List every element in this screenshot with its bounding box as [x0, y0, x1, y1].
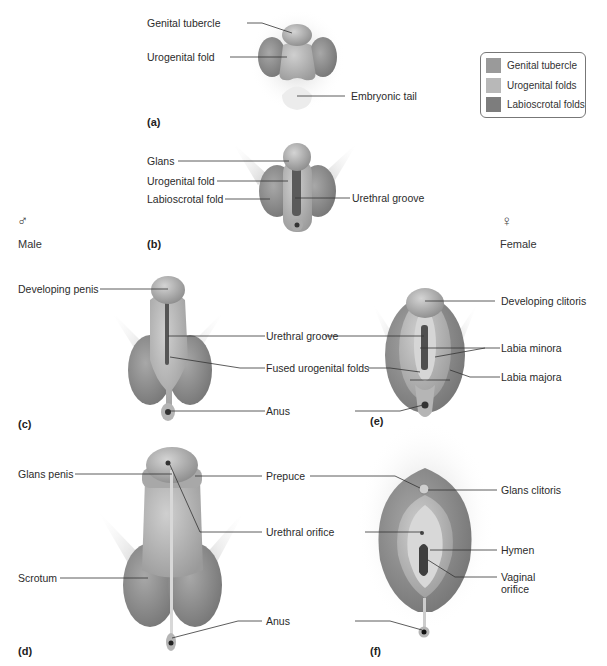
legend-item-labioscrotal-folds: Labioscrotal folds	[486, 96, 585, 112]
label-anus-df: Anus	[266, 615, 290, 627]
label-vaginal-orifice-line2: orifice	[501, 583, 529, 595]
legend-label: Genital tubercle	[507, 60, 577, 71]
label-glans-clitoris: Glans clitoris	[501, 484, 561, 496]
panel-tag-d: (d)	[18, 645, 32, 657]
panel-tag-a: (a)	[147, 116, 160, 128]
label-glans: Glans	[147, 155, 174, 167]
panel-c-drawing	[110, 276, 225, 421]
panel-tag-b: (b)	[147, 238, 161, 250]
label-urogenital-fold-a: Urogenital fold	[147, 51, 215, 63]
label-urethral-groove-b: Urethral groove	[352, 192, 424, 204]
label-labia-minora: Labia minora	[501, 342, 562, 354]
male-symbol-icon: ♂	[17, 212, 28, 229]
female-label: Female	[500, 238, 537, 250]
label-urethral-groove-ce: Urethral groove	[266, 330, 338, 342]
panel-tag-e: (e)	[370, 415, 383, 427]
male-label: Male	[18, 238, 42, 250]
label-labia-majora: Labia majora	[501, 371, 562, 383]
legend-label: Labioscrotal folds	[507, 99, 585, 110]
label-prepuce: Prepuce	[266, 470, 305, 482]
swatch-genital-tubercle	[486, 58, 501, 73]
label-urogenital-fold-b: Urogenital fold	[147, 175, 215, 187]
label-embryonic-tail: Embryonic tail	[351, 90, 417, 102]
label-scrotum: Scrotum	[18, 572, 57, 584]
swatch-urogenital-folds	[486, 78, 501, 93]
label-genital-tubercle: Genital tubercle	[147, 17, 221, 29]
genital-development-diagram: Genital tubercle Urogenital folds Labios…	[0, 0, 607, 666]
legend-item-urogenital-folds: Urogenital folds	[486, 77, 576, 93]
female-symbol-icon: ♀	[501, 212, 512, 229]
panel-f-drawing	[357, 420, 493, 638]
label-fused-urogenital-folds: Fused urogenital folds	[266, 362, 369, 374]
legend-item-genital-tubercle: Genital tubercle	[486, 57, 577, 73]
swatch-labioscrotal-folds	[486, 97, 501, 112]
label-vaginal-orifice-line1: Vaginal	[501, 571, 535, 583]
panel-d-drawing	[97, 447, 245, 651]
label-anus-ce: Anus	[266, 405, 290, 417]
legend: Genital tubercle Urogenital folds Labios…	[480, 52, 586, 118]
panel-tag-f: (f)	[370, 645, 381, 657]
panel-tag-c: (c)	[18, 418, 31, 430]
label-hymen: Hymen	[501, 544, 534, 556]
label-urethral-orifice: Urethral orifice	[266, 526, 334, 538]
label-developing-penis: Developing penis	[18, 283, 99, 295]
label-labioscrotal-fold: Labioscrotal fold	[147, 193, 223, 205]
legend-label: Urogenital folds	[507, 80, 576, 91]
panel-b-drawing	[232, 142, 358, 232]
label-developing-clitoris: Developing clitoris	[501, 295, 586, 307]
label-glans-penis: Glans penis	[18, 468, 73, 480]
